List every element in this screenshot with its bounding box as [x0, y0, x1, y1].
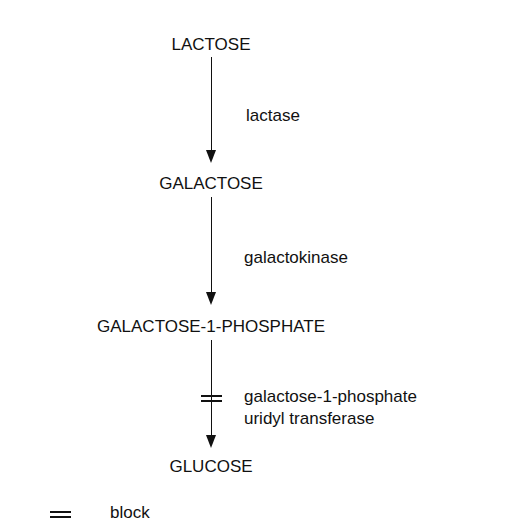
- enzyme-g1p-uridyltransferase-line2: uridyl transferase: [244, 409, 374, 429]
- arrow-shaft-2: [211, 197, 213, 293]
- block-mark-icon: [201, 400, 222, 402]
- block-legend-icon: [50, 511, 71, 513]
- enzyme-galactokinase: galactokinase: [244, 248, 348, 268]
- enzyme-g1p-uridyltransferase-line1: galactose-1-phosphate: [244, 387, 417, 407]
- block-legend-icon: [50, 516, 71, 518]
- legend-label: block: [110, 503, 150, 523]
- substrate-galactose-1-phosphate: GALACTOSE-1-PHOSPHATE: [97, 317, 325, 337]
- substrate-glucose: GLUCOSE: [169, 457, 252, 477]
- arrow-head-icon: [206, 292, 216, 305]
- enzyme-lactase: lactase: [246, 106, 300, 126]
- arrow-shaft-1: [211, 57, 213, 151]
- arrow-head-icon: [206, 435, 216, 448]
- substrate-galactose: GALACTOSE: [159, 174, 263, 194]
- arrow-shaft-3: [211, 340, 213, 436]
- arrow-head-icon: [206, 150, 216, 163]
- substrate-lactose: LACTOSE: [171, 35, 250, 55]
- block-mark-icon: [201, 395, 222, 397]
